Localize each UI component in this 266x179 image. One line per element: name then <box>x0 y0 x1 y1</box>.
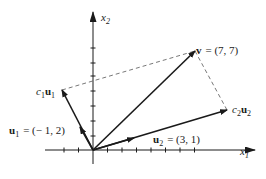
x-axis <box>45 148 255 153</box>
label-u1: u1= (− 1, 2) <box>9 124 65 139</box>
vector-decomposition-diagram: x1 x2 v= (7, 7) c1u1 u1= (− 1, 2) <box>0 0 266 179</box>
label-c2u2: c2u2 <box>232 103 251 118</box>
y-axis-label: x2 <box>100 11 110 26</box>
x-axis-label: x1 <box>239 145 249 160</box>
y-axis <box>91 12 96 164</box>
label-v: v= (7, 7) <box>196 44 239 57</box>
dashed-line-v-to-c2u2 <box>195 51 227 110</box>
vector-u1 <box>80 127 93 150</box>
label-c1u1: c1u1 <box>36 85 55 100</box>
label-u2: u2= (3, 1) <box>153 133 200 148</box>
